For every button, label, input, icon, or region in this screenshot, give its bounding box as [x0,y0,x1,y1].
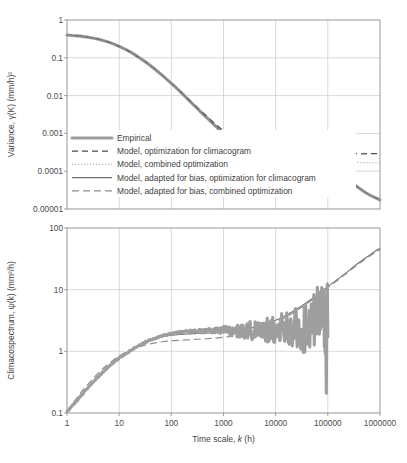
climacogram-y-axis-title: Variance, γ(K) (mm/h)² [6,72,16,157]
panel-climacogram: 10.10.010.0010.00010.00001Variance, γ(K)… [6,15,380,214]
y-tick-label: 10 [54,285,64,295]
y-tick-label: 0.1 [51,408,63,418]
climacospectrum-y-tick-labels: 1001010.1 [49,223,67,418]
x-tick-label: 1000000 [364,418,397,428]
x-tick-label: 10000 [264,418,287,428]
y-tick-label: 0.001 [42,128,63,138]
climacospectrum-y-axis-title: Climacospectrum, ψ(k) (mm²/h) [6,261,16,380]
climacospectrum-gridlines-vertical [67,228,380,413]
y-tick-label: 0.01 [47,91,64,101]
y-tick-label: 0.0001 [38,166,64,176]
legend: EmpiricalModel, optimization for climaco… [68,130,356,197]
y-tick-label: 1 [58,346,63,356]
climacogram-climacospectrum-figure: 10.10.010.0010.00010.00001Variance, γ(K)… [0,0,407,463]
x-axis: 1101001000100001000001000000Time scale, … [65,413,397,444]
figure-container: 10.10.010.0010.00010.00001Variance, γ(K)… [0,0,407,463]
series-line-empirical-noisy [67,284,328,412]
panel-climacospectrum: 1001010.1Climacospectrum, ψ(k) (mm²/h)11… [6,223,397,444]
legend-label-4: Model, adapted for bias, optimization fo… [117,173,316,183]
x-tick-label: 100000 [314,418,342,428]
x-axis-title: Time scale, k (h) [192,434,255,444]
y-tick-label: 1 [58,15,63,25]
x-tick-label: 1 [65,418,70,428]
legend-label-1: Empirical [117,133,152,143]
x-tick-label: 100 [164,418,178,428]
y-tick-label: 0.1 [51,53,63,63]
x-tick-label: 1000 [214,418,233,428]
legend-label-2: Model, optimization for climacogram [117,146,251,156]
y-tick-label: 0.00001 [33,204,63,214]
legend-label-3: Model, combined optimization [117,159,228,169]
climacogram-y-tick-labels: 10.10.010.0010.00010.00001 [33,15,67,214]
y-tick-label: 100 [49,223,63,233]
legend-label-5: Model, adapted for bias, combined optimi… [117,186,293,196]
x-tick-label: 10 [115,418,125,428]
